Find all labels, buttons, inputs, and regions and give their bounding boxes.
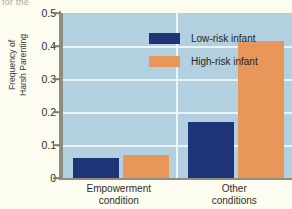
y-axis-title-line-1: Frequency of <box>7 3 18 127</box>
y-tick-mark <box>53 12 60 14</box>
y-tick-label: 0.2 <box>28 106 56 118</box>
legend-label: Low-risk infant <box>191 33 255 44</box>
y-axis-tick-labels: 0.50.40.30.20.10 <box>28 0 56 209</box>
y-tick-label: 0 <box>28 172 56 184</box>
x-category-label-line: Other <box>174 183 292 195</box>
y-tick-label: 0.5 <box>28 7 56 19</box>
x-axis-line <box>59 178 292 180</box>
legend-swatch-low <box>149 33 180 44</box>
bar-high-0[interactable] <box>123 155 169 178</box>
y-tick-label: 0.3 <box>28 73 56 85</box>
y-tick-label: 0.4 <box>28 40 56 52</box>
x-category-label-0: Empowermentcondition <box>59 183 179 207</box>
x-category-label-line: Empowerment <box>59 183 179 195</box>
legend-label: High-risk infant <box>191 56 258 67</box>
y-tick-mark <box>53 111 60 113</box>
legend-item-1[interactable]: High-risk infant <box>149 54 258 69</box>
y-tick-mark <box>53 144 60 146</box>
plot-area: Low-risk infantHigh-risk infant <box>61 13 292 178</box>
chart-legend: Low-risk infantHigh-risk infant <box>149 31 258 77</box>
legend-swatch-high <box>149 56 180 67</box>
legend-item-0[interactable]: Low-risk infant <box>149 31 258 46</box>
y-tick-mark <box>53 78 60 80</box>
x-category-label-line: conditions <box>174 195 292 207</box>
x-category-label-1: Otherconditions <box>174 183 292 207</box>
y-axis-title-line-2: Harsh Parenting <box>18 3 29 127</box>
x-category-label-line: condition <box>59 195 179 207</box>
y-tick-mark <box>53 177 60 179</box>
chart-figure: for the Frequency of Harsh Parenting 0.5… <box>0 0 292 209</box>
bar-low-0[interactable] <box>73 158 119 178</box>
y-tick-label: 0.1 <box>28 139 56 151</box>
bar-low-1[interactable] <box>188 122 234 178</box>
y-tick-mark <box>53 45 60 47</box>
